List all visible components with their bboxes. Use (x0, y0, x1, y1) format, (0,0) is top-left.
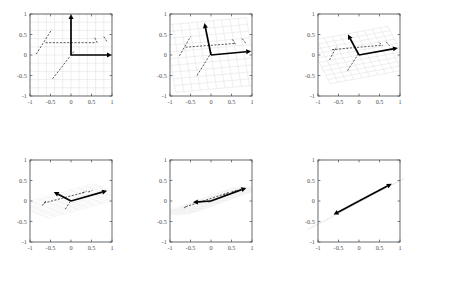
svg-text:0.5: 0.5 (307, 177, 315, 184)
svg-text:0: 0 (312, 51, 315, 58)
svg-text:0.5: 0.5 (159, 177, 167, 184)
svg-text:-0.5: -0.5 (186, 98, 196, 105)
panel-6: -1-0.500.51-1-0.500.51 (296, 152, 404, 260)
svg-text:-1: -1 (27, 244, 32, 251)
svg-text:1: 1 (164, 156, 167, 163)
svg-text:-0.5: -0.5 (186, 244, 196, 251)
svg-text:0.5: 0.5 (228, 244, 236, 251)
svg-text:0: 0 (312, 197, 315, 204)
svg-text:-1: -1 (310, 238, 315, 245)
svg-text:0.5: 0.5 (376, 244, 384, 251)
svg-text:-0.5: -0.5 (334, 98, 344, 105)
panel-4: -1-0.500.51-1-0.500.51 (8, 152, 116, 260)
svg-text:0.5: 0.5 (376, 98, 384, 105)
svg-text:-0.5: -0.5 (46, 244, 56, 251)
svg-text:-1: -1 (315, 244, 320, 251)
svg-text:0.5: 0.5 (88, 244, 96, 251)
svg-text:1: 1 (398, 244, 401, 251)
svg-text:-1: -1 (310, 92, 315, 99)
svg-text:-0.5: -0.5 (17, 72, 27, 79)
svg-text:1: 1 (110, 98, 113, 105)
svg-text:-0.5: -0.5 (305, 72, 315, 79)
svg-text:-1: -1 (22, 238, 27, 245)
svg-text:1: 1 (110, 244, 113, 251)
figure-panel-grid: -1-0.500.51-1-0.500.51-1-0.500.51-1-0.50… (0, 0, 452, 300)
svg-text:0: 0 (357, 98, 360, 105)
svg-text:-0.5: -0.5 (157, 218, 167, 225)
svg-text:-1: -1 (22, 92, 27, 99)
svg-text:0: 0 (164, 197, 167, 204)
panel-1: -1-0.500.51-1-0.500.51 (8, 6, 116, 114)
basis-vector-group (348, 35, 398, 56)
svg-text:1: 1 (250, 98, 253, 105)
svg-text:0.5: 0.5 (307, 31, 315, 38)
svg-text:0: 0 (357, 244, 360, 251)
svg-text:-1: -1 (162, 238, 167, 245)
svg-text:0.5: 0.5 (19, 177, 27, 184)
svg-text:1: 1 (164, 10, 167, 17)
svg-text:0.5: 0.5 (88, 98, 96, 105)
svg-text:0.5: 0.5 (228, 98, 236, 105)
svg-text:-1: -1 (167, 244, 172, 251)
axis-ticks: -1-0.500.51-1-0.500.51 (17, 10, 114, 104)
basis-vector-group (69, 14, 113, 58)
axis-ticks: -1-0.500.51-1-0.500.51 (17, 156, 114, 250)
panel-2: -1-0.500.51-1-0.500.51 (148, 6, 256, 114)
basis-vector-group (334, 184, 392, 215)
svg-text:0: 0 (209, 98, 212, 105)
svg-text:-1: -1 (315, 98, 320, 105)
svg-text:1: 1 (24, 10, 27, 17)
svg-text:0: 0 (69, 98, 72, 105)
svg-text:1: 1 (312, 10, 315, 17)
svg-text:-0.5: -0.5 (334, 244, 344, 251)
svg-text:0: 0 (24, 51, 27, 58)
svg-text:0: 0 (24, 197, 27, 204)
svg-text:0: 0 (164, 51, 167, 58)
svg-text:-1: -1 (27, 98, 32, 105)
svg-text:-0.5: -0.5 (46, 98, 56, 105)
panel-5: -1-0.500.51-1-0.500.51 (148, 152, 256, 260)
svg-text:-0.5: -0.5 (305, 218, 315, 225)
svg-text:-1: -1 (162, 92, 167, 99)
svg-text:1: 1 (24, 156, 27, 163)
svg-text:-0.5: -0.5 (17, 218, 27, 225)
svg-text:-1: -1 (167, 98, 172, 105)
svg-text:-0.5: -0.5 (157, 72, 167, 79)
svg-text:0: 0 (69, 244, 72, 251)
svg-text:0.5: 0.5 (19, 31, 27, 38)
axis-ticks: -1-0.500.51-1-0.500.51 (305, 10, 402, 104)
svg-text:1: 1 (398, 98, 401, 105)
svg-text:0.5: 0.5 (159, 31, 167, 38)
panel-3: -1-0.500.51-1-0.500.51 (296, 6, 404, 114)
svg-text:1: 1 (250, 244, 253, 251)
svg-text:1: 1 (312, 156, 315, 163)
svg-text:0: 0 (209, 244, 212, 251)
